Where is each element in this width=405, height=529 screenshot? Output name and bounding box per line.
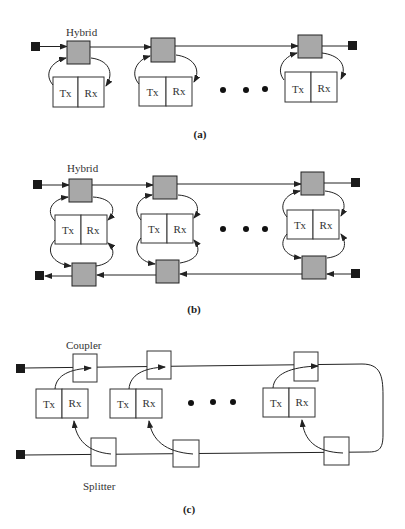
caption-c: (c) bbox=[183, 503, 196, 516]
svg-text:Tx: Tx bbox=[270, 397, 283, 409]
ellipsis-b bbox=[220, 226, 268, 232]
svg-text:Tx: Tx bbox=[62, 224, 75, 236]
terminal-bottom-c bbox=[16, 450, 25, 459]
svg-text:Tx: Tx bbox=[148, 223, 161, 235]
hybrid-top-b2 bbox=[153, 176, 177, 199]
hybrid-node-a2 bbox=[151, 38, 175, 62]
rx-label: Rx bbox=[85, 87, 98, 99]
hybrid-node-a3 bbox=[298, 35, 322, 58]
hybrid-top-b1 bbox=[69, 179, 92, 202]
svg-text:Tx: Tx bbox=[146, 86, 159, 98]
panel-b: Hybrid Tx Rx bbox=[33, 162, 360, 316]
svg-text:Tx: Tx bbox=[117, 398, 130, 410]
coupler-label: Coupler bbox=[66, 339, 102, 351]
ellipsis-c bbox=[188, 399, 236, 406]
ellipsis-a bbox=[220, 86, 268, 93]
network-topology-diagram: Hybrid Tx Rx Tx Rx bbox=[0, 0, 405, 529]
svg-text:Rx: Rx bbox=[320, 219, 333, 231]
hybrid-label-b: Hybrid bbox=[67, 162, 99, 174]
svg-text:Rx: Rx bbox=[69, 397, 82, 409]
station-b2: Tx Rx bbox=[137, 195, 198, 264]
svg-text:Tx: Tx bbox=[292, 83, 305, 95]
station-a2: Tx Rx bbox=[135, 55, 197, 106]
svg-text:Rx: Rx bbox=[174, 223, 187, 235]
tx-label: Tx bbox=[59, 87, 72, 99]
terminal-bottom-right-b bbox=[351, 269, 360, 278]
svg-text:Rx: Rx bbox=[296, 396, 309, 408]
panel-a: Hybrid Tx Rx Tx Rx bbox=[31, 26, 357, 141]
panel-c: Coupler Splitter Tx Rx Tx Rx bbox=[16, 339, 383, 516]
splitter-label: Splitter bbox=[83, 480, 116, 492]
svg-text:Tx: Tx bbox=[294, 219, 307, 231]
hybrid-top-b3 bbox=[301, 172, 324, 195]
hybrid-bottom-b1 bbox=[72, 263, 96, 286]
svg-text:Rx: Rx bbox=[173, 85, 186, 97]
station-b3: Tx Rx bbox=[283, 191, 345, 258]
svg-text:Rx: Rx bbox=[87, 224, 100, 236]
station-b1: Tx Rx bbox=[50, 197, 113, 266]
terminal-top-right-b bbox=[351, 178, 360, 187]
hybrid-label-a: Hybrid bbox=[66, 26, 98, 38]
terminal-bottom-left-b bbox=[35, 271, 44, 280]
hybrid-bottom-b2 bbox=[156, 260, 179, 283]
terminal-top-left-b bbox=[33, 180, 42, 189]
terminal-left-a bbox=[31, 42, 40, 51]
hybrid-node-a1 bbox=[67, 41, 90, 64]
station-a3: Tx Rx bbox=[280, 53, 343, 102]
caption-b: (b) bbox=[187, 303, 201, 316]
splitter-c1 bbox=[91, 438, 116, 466]
svg-text:Tx: Tx bbox=[43, 398, 56, 410]
terminal-right-a bbox=[348, 41, 357, 50]
coupler-c2 bbox=[147, 351, 171, 379]
svg-text:Rx: Rx bbox=[318, 82, 331, 94]
caption-a: (a) bbox=[194, 128, 207, 141]
hybrid-bottom-b3 bbox=[302, 256, 326, 279]
station-a1: Tx Rx bbox=[49, 58, 110, 107]
svg-text:Rx: Rx bbox=[143, 397, 156, 409]
terminal-top-c bbox=[16, 364, 25, 373]
